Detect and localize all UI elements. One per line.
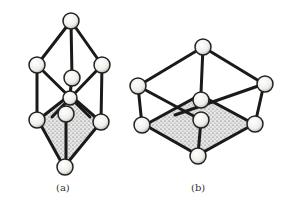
atom-front-a	[58, 106, 74, 122]
structure-b	[130, 39, 273, 164]
atom-front-b	[193, 112, 209, 128]
atom-center-b	[193, 92, 209, 108]
atom-lowleft-b	[134, 117, 150, 133]
atom-left-b	[130, 78, 146, 94]
caption-b: (b)	[191, 182, 205, 193]
atom-top-a	[63, 13, 79, 29]
atom-left-a	[29, 57, 45, 73]
atom-lowright-a	[93, 114, 109, 130]
atom-lowleft-a	[29, 112, 45, 128]
atom-top-b	[195, 39, 211, 55]
atom-right-b	[257, 76, 273, 92]
atom-bottom-a	[57, 159, 73, 175]
caption-a: (a)	[56, 182, 70, 193]
atom-lowright-b	[247, 116, 263, 132]
atom-mid-a	[63, 91, 77, 105]
structure-a	[29, 13, 110, 175]
atom-right-a	[94, 57, 110, 73]
atom-center-a	[64, 70, 80, 86]
atom-bottom-b	[190, 148, 206, 164]
figure-canvas	[0, 0, 289, 207]
shaded-pyramid-a	[38, 95, 101, 167]
